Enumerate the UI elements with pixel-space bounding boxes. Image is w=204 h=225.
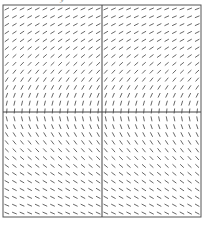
slope-segment (165, 148, 168, 152)
slope-segment (73, 16, 77, 18)
slope-segment (196, 132, 198, 137)
slope-segment (158, 140, 161, 144)
slope-segment (81, 148, 84, 152)
slope-segment (157, 31, 161, 33)
slope-segment (5, 188, 9, 190)
slope-segment (150, 140, 153, 144)
slope-segment (58, 204, 63, 206)
slope-segment (164, 212, 168, 214)
slope-segment (65, 8, 70, 10)
slope-segment (67, 85, 69, 89)
slope-segment (142, 31, 146, 33)
slope-segment (157, 70, 161, 74)
slope-segment (14, 93, 16, 98)
slope-segment (58, 188, 62, 190)
slope-segment (28, 70, 31, 74)
slope-segment (111, 212, 116, 214)
slope-segment (180, 78, 183, 82)
slope-segment (196, 85, 199, 89)
slope-segment (81, 172, 85, 175)
slope-segment (21, 132, 24, 136)
slope-segment (120, 140, 123, 144)
slope-segment (50, 196, 54, 198)
slope-segment (58, 62, 62, 66)
slope-segment (127, 39, 131, 42)
slope-segment (12, 39, 16, 42)
slope-segment (188, 132, 190, 137)
slope-segment (135, 148, 138, 152)
slope-segment (112, 140, 115, 144)
slope-segment (149, 188, 153, 191)
slope-segment (106, 109, 107, 114)
slope-segment (43, 196, 47, 198)
slope-segment (149, 212, 153, 214)
slope-segment (157, 39, 161, 42)
slope-segment (73, 212, 78, 214)
slope-segment (127, 78, 130, 82)
slope-segment (188, 164, 192, 167)
slope-segment (20, 62, 23, 66)
slope-segment (82, 101, 83, 106)
slope-segment (127, 62, 131, 65)
slope-segment (113, 101, 114, 106)
slope-segment (20, 180, 24, 182)
slope-segment (96, 196, 100, 198)
slope-segment (128, 124, 130, 129)
slope-segment (5, 23, 9, 26)
slope-segment (67, 116, 68, 121)
slope-segment (20, 196, 25, 198)
slope-segment (96, 23, 100, 25)
slope-segment (157, 47, 161, 50)
slope-segment (97, 93, 99, 98)
slope-segment (96, 204, 100, 206)
slope-segment (5, 180, 9, 182)
slope-segment (66, 132, 69, 136)
slope-segment (126, 23, 130, 25)
slope-segment (165, 85, 168, 89)
slope-segment (20, 172, 24, 175)
slope-segment (142, 196, 146, 198)
slope-segment (88, 39, 92, 42)
slope-segment (127, 156, 131, 160)
slope-segment (28, 164, 32, 167)
slope-segment (88, 188, 92, 191)
slope-segment (5, 70, 8, 74)
slope-segment (12, 196, 17, 198)
slope-segment (165, 180, 169, 183)
slope-segment (149, 24, 153, 26)
slope-segment (20, 140, 23, 144)
slope-segment (58, 31, 62, 34)
slope-segment (44, 101, 45, 106)
slope-segment (158, 78, 161, 82)
slope-segment (195, 196, 199, 199)
slope-segment (105, 85, 108, 89)
slope-segment (150, 85, 153, 89)
slope-segment (120, 93, 122, 98)
slope-segment (195, 62, 199, 65)
slope-segment (104, 196, 108, 198)
slope-segment (50, 31, 54, 34)
slope-segment (112, 156, 116, 160)
slope-segment (35, 156, 39, 159)
slope-segment (188, 180, 192, 183)
slope-segment (36, 62, 40, 66)
slope-segment (51, 164, 55, 167)
slope-segment (43, 39, 47, 42)
slope-segment (96, 62, 100, 65)
slope-segment (96, 47, 100, 50)
slope-segment (28, 85, 30, 89)
slope-segment (173, 70, 177, 73)
slope-segment (195, 180, 199, 183)
slope-segment (96, 212, 101, 214)
slope-segment (112, 148, 115, 152)
slope-segment (195, 39, 199, 41)
slope-segment (135, 70, 138, 74)
slope-segment (65, 204, 70, 206)
slope-segment (104, 204, 108, 206)
slope-segment (51, 54, 55, 57)
slope-segment (119, 62, 123, 65)
slope-segment (37, 101, 38, 106)
slope-segment (127, 164, 131, 167)
slope-segment (35, 39, 39, 42)
slope-segment (21, 124, 23, 129)
